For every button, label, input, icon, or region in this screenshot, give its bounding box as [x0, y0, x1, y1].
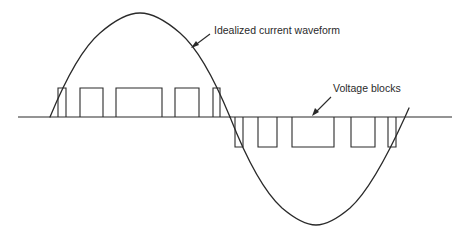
current-label-arrow [191, 34, 210, 48]
voltage-block [351, 117, 375, 147]
waveform-diagram: Idealized current waveform Voltage block… [0, 0, 464, 237]
voltage-label-arrow [312, 97, 331, 116]
voltage-block [258, 117, 277, 147]
negative-voltage-blocks [235, 117, 396, 147]
voltage-block [388, 117, 396, 147]
positive-voltage-blocks [58, 88, 220, 117]
voltage-block [58, 88, 66, 117]
voltage-block [175, 88, 199, 117]
current-waveform-negative-half [230, 108, 409, 225]
voltage-block [80, 88, 103, 117]
current-waveform-positive-half [50, 13, 230, 117]
voltage-block [292, 117, 334, 147]
current-waveform-label: Idealized current waveform [214, 24, 340, 36]
voltage-blocks-label: Voltage blocks [333, 82, 401, 94]
voltage-block [116, 88, 162, 117]
